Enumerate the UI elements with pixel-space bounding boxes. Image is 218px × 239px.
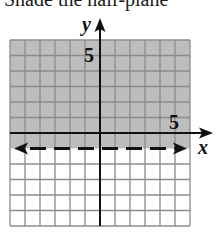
x-axis-label: x (197, 136, 208, 158)
y-tick-label-5: 5 (84, 44, 94, 66)
x-tick-label-5: 5 (169, 111, 179, 133)
y-axis-label: y (80, 13, 91, 36)
coordinate-graph: y x 5 5 (0, 0, 218, 239)
